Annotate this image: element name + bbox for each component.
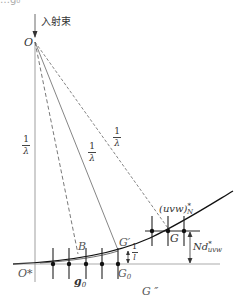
point-G-double-prime-label: G ″ <box>142 286 158 297</box>
solid-ray-to-G-prime <box>35 42 118 250</box>
lattice-point <box>182 229 186 233</box>
lattice-point <box>150 229 154 233</box>
point-G-prime-label: G′ <box>119 237 130 248</box>
incident-beam-label: 入射束 <box>41 17 71 27</box>
lattice-point-G0 <box>116 262 120 266</box>
origin-O-label: O <box>24 37 33 48</box>
point-G-label: G <box>170 233 179 244</box>
lattice-point <box>84 262 88 266</box>
incident-beam-arrow <box>33 14 38 38</box>
ewald-sphere-diagram <box>0 0 247 307</box>
point-B-label: B <box>78 241 86 252</box>
layer-height-label: Nd*uvw <box>193 241 222 254</box>
dashed-ray-to-G <box>35 42 170 231</box>
radius-label-to-G-prime: 1 λ <box>88 142 96 163</box>
lattice-point <box>100 262 104 266</box>
spacing-arrow <box>127 251 130 263</box>
radius-label-to-G: 1 λ <box>113 127 121 148</box>
spacing-label: 1 l <box>131 243 138 262</box>
plane-uvw-N-label: (uvw)*N <box>159 203 193 216</box>
radius-label-vertical: 1 λ <box>22 135 30 156</box>
layer-height-arrow <box>188 232 192 263</box>
point-G0-label: G0 <box>118 268 131 281</box>
dashed-ray-to-B <box>35 42 78 254</box>
lattice-point <box>67 262 71 266</box>
lattice-point <box>51 262 55 266</box>
cropped-text-fragment: …g₀ <box>0 0 20 5</box>
vector-g0-label: g0 <box>74 276 86 289</box>
reciprocal-origin-label: O* <box>18 268 33 279</box>
